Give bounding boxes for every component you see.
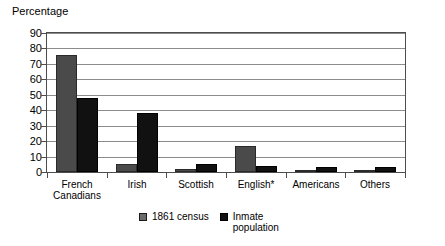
x-tick-mark bbox=[47, 173, 48, 178]
y-axis-title: Percentage bbox=[12, 5, 68, 18]
bar bbox=[116, 164, 137, 172]
legend-label: Inmate population bbox=[233, 211, 279, 233]
x-tick-mark bbox=[226, 173, 227, 178]
x-tick-mark bbox=[166, 173, 167, 178]
x-category-label: Americans bbox=[286, 179, 346, 190]
bar bbox=[316, 167, 337, 172]
bar bbox=[354, 170, 375, 172]
bar-group bbox=[107, 33, 167, 172]
y-tick-label: 60 bbox=[16, 74, 42, 85]
x-category-label-line1: English* bbox=[226, 179, 286, 190]
bar bbox=[137, 113, 158, 172]
bar bbox=[375, 167, 396, 172]
bar-group bbox=[345, 33, 405, 172]
y-tick-label: 10 bbox=[16, 152, 42, 163]
y-tick-label: 90 bbox=[16, 28, 42, 39]
x-tick-mark bbox=[405, 173, 406, 178]
y-tick-label: 70 bbox=[16, 59, 42, 70]
inmate-swatch bbox=[220, 213, 228, 221]
bar-group bbox=[226, 33, 286, 172]
bar-group bbox=[286, 33, 346, 172]
x-category-label-line1: Irish bbox=[107, 179, 167, 190]
census-swatch bbox=[139, 213, 147, 221]
bar-group bbox=[166, 33, 226, 172]
x-category-label: Irish bbox=[107, 179, 167, 190]
x-category-label-line1: Scottish bbox=[166, 179, 226, 190]
x-category-label-line2: Canadians bbox=[47, 190, 107, 201]
x-category-label: FrenchCanadians bbox=[47, 179, 107, 201]
y-tick-label: 40 bbox=[16, 105, 42, 116]
x-tick-mark bbox=[286, 173, 287, 178]
chart-legend: 1861 censusInmate population bbox=[139, 211, 279, 233]
y-tick-label: 50 bbox=[16, 90, 42, 101]
x-category-label-line1: French bbox=[47, 179, 107, 190]
bar bbox=[175, 169, 196, 172]
y-tick-label: 80 bbox=[16, 43, 42, 54]
bar-chart: Percentage 9080706050403020100 FrenchCan… bbox=[0, 0, 445, 246]
legend-entry: 1861 census bbox=[139, 211, 209, 222]
bar bbox=[77, 98, 98, 172]
legend-entry: Inmate population bbox=[220, 211, 279, 233]
x-tick-mark bbox=[345, 173, 346, 178]
x-category-label: Others bbox=[345, 179, 405, 190]
bar-group bbox=[47, 33, 107, 172]
x-tick-mark bbox=[107, 173, 108, 178]
x-category-label-line1: Americans bbox=[286, 179, 346, 190]
bar bbox=[235, 146, 256, 172]
bar bbox=[196, 164, 217, 172]
legend-label: 1861 census bbox=[152, 211, 209, 222]
y-tick-label: 30 bbox=[16, 121, 42, 132]
y-tick-label: 20 bbox=[16, 136, 42, 147]
bar bbox=[295, 170, 316, 172]
bar bbox=[56, 55, 77, 172]
bars-layer bbox=[47, 33, 405, 172]
x-category-label: English* bbox=[226, 179, 286, 190]
bar bbox=[256, 166, 277, 172]
x-category-label-line1: Others bbox=[345, 179, 405, 190]
x-category-label: Scottish bbox=[166, 179, 226, 190]
y-tick-label: 0 bbox=[16, 167, 42, 178]
